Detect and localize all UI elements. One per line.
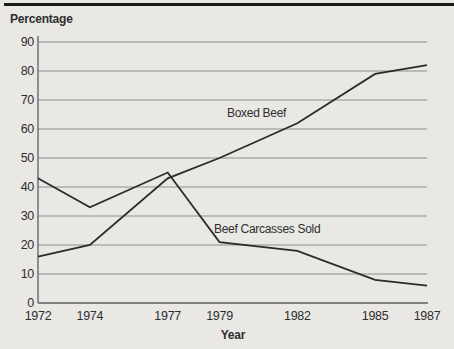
- chart-figure: Percentage Boxed Beef Beef Carcasses Sol…: [0, 0, 454, 349]
- x-tick-label: 1972: [18, 309, 58, 323]
- series-label-beef-carcasses-sold: Beef Carcasses Sold: [214, 222, 320, 236]
- y-tick-label: 90: [8, 35, 34, 49]
- y-tick-label: 80: [8, 64, 34, 78]
- x-tick-label: 1987: [407, 309, 447, 323]
- x-tick-label: 1977: [148, 309, 188, 323]
- y-tick-label: 60: [8, 122, 34, 136]
- y-tick-label: 0: [8, 296, 34, 310]
- y-tick-label: 10: [8, 267, 34, 281]
- y-tick-label: 30: [8, 209, 34, 223]
- x-tick-label: 1979: [200, 309, 240, 323]
- x-tick-label: 1982: [277, 309, 317, 323]
- y-tick-label: 20: [8, 238, 34, 252]
- x-tick-label: 1974: [70, 309, 110, 323]
- y-tick-label: 50: [8, 151, 34, 165]
- x-axis-title: Year: [213, 328, 253, 342]
- y-tick-label: 40: [8, 180, 34, 194]
- plot-area: [0, 0, 454, 349]
- y-tick-label: 70: [8, 93, 34, 107]
- x-tick-label: 1985: [355, 309, 395, 323]
- series-label-boxed-beef: Boxed Beef: [227, 106, 286, 120]
